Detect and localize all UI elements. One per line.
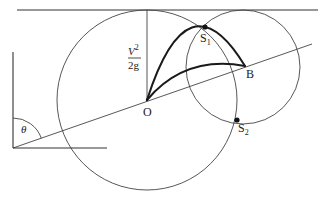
s2-subscript: 2 [245,128,249,137]
s1-letter: S [200,31,207,45]
origin-label: O [143,105,152,119]
height-numerator: V2 [128,43,139,57]
projectile-diagram: O B S1 S2 θ V2 2g [0,0,330,201]
s1-point [202,24,207,29]
low-trajectory [147,64,245,100]
height-num-exp: 2 [135,43,139,52]
angle-arc [13,118,41,138]
origin-point [146,99,148,101]
s1-subscript: 1 [207,38,211,47]
s2-letter: S [238,121,245,135]
point-b-label: B [246,67,254,81]
s2-label: S2 [238,121,249,137]
height-denominator: 2g [128,59,140,71]
high-trajectory [147,26,245,100]
angle-label: θ [21,123,27,135]
s1-label: S1 [200,31,211,47]
